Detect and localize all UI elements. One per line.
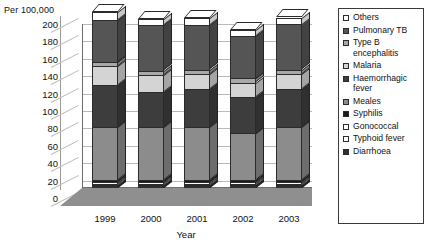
bar-segment-malaria[interactable] [92, 66, 118, 85]
bar-segment-diarrhoea[interactable] [92, 185, 118, 188]
bar-segment-typhoid-fever[interactable] [92, 184, 118, 186]
bar-segment-haemorrhagic-fever[interactable] [138, 92, 164, 127]
legend-label: Diarrhoea [353, 146, 391, 157]
bar-segment-pulmonary-tb[interactable] [92, 20, 118, 62]
bar-segment-gonococcal[interactable] [184, 182, 210, 184]
bar-segment-diarrhoea[interactable] [184, 185, 210, 188]
y-axis-tick-label: 200 [22, 19, 58, 30]
bar-segment-meales[interactable] [138, 127, 164, 180]
legend-swatch [343, 149, 349, 155]
bar-segment-meales[interactable] [230, 133, 256, 180]
legend-swatch [343, 136, 349, 142]
y-axis-tick-label: 180 [22, 36, 58, 47]
bar-segment-meales[interactable] [184, 127, 210, 180]
x-axis-tick-label: 1999 [82, 213, 128, 224]
bar-segment-side [302, 83, 310, 128]
legend-item-haemorrhagic-fever[interactable]: Haemorrhagic fever [343, 73, 421, 94]
bar-segment-typhoid-fever[interactable] [276, 184, 302, 186]
bar-segment-type-b-encephalitis[interactable] [276, 70, 302, 74]
bar-segment-syphilis[interactable] [138, 180, 164, 182]
legend-item-diarrhoea[interactable]: Diarrhoea [343, 146, 421, 157]
legend-swatch [343, 40, 349, 46]
bar-segment-malaria[interactable] [138, 75, 164, 92]
x-axis-tick-label: 2003 [266, 213, 312, 224]
legend-swatch [343, 15, 349, 21]
y-axis-tick-label: 160 [22, 53, 58, 64]
bar-segment-malaria[interactable] [184, 74, 210, 89]
bar-segment-malaria[interactable] [230, 83, 256, 97]
bar-segment-type-b-encephalitis[interactable] [184, 70, 210, 74]
y-axis-tick-label: 140 [22, 71, 58, 82]
y-axis-tick-label: 80 [22, 123, 58, 134]
bar-segment-pulmonary-tb[interactable] [184, 25, 210, 69]
x-axis-tick-label: 2001 [174, 213, 220, 224]
legend-item-malaria[interactable]: Malaria [343, 60, 421, 71]
bar-segment-gonococcal[interactable] [92, 182, 118, 184]
bar-segment-syphilis[interactable] [92, 180, 118, 182]
bar-segment-gonococcal[interactable] [138, 182, 164, 184]
legend-label: Pulmonary TB [353, 25, 407, 36]
legend-item-others[interactable]: Others [343, 12, 421, 23]
bar-segment-meales[interactable] [92, 127, 118, 180]
bar-segment-type-b-encephalitis[interactable] [138, 71, 164, 75]
chart-legend: OthersPulmonary TBType B encephalitisMal… [338, 8, 424, 224]
legend-swatch [343, 63, 349, 69]
legend-label: Haemorrhagic fever [353, 73, 421, 94]
bar-segment-pulmonary-tb[interactable] [230, 36, 256, 79]
legend-item-gonococcal[interactable]: Gonococcal [343, 121, 421, 132]
bar-segment-malaria[interactable] [276, 74, 302, 89]
bar-segment-meales[interactable] [276, 127, 302, 180]
bar-segment-gonococcal[interactable] [276, 182, 302, 184]
bar-segment-haemorrhagic-fever[interactable] [184, 89, 210, 127]
legend-item-syphilis[interactable]: Syphilis [343, 108, 421, 119]
bar-segment-side [256, 90, 264, 133]
bar-segment-typhoid-fever[interactable] [138, 184, 164, 186]
bar-segment-type-b-encephalitis[interactable] [92, 62, 118, 66]
bar-segment-others[interactable] [92, 12, 118, 20]
bar-segment-diarrhoea[interactable] [230, 185, 256, 188]
legend-label: Gonococcal [353, 121, 398, 132]
bar-segment-diarrhoea[interactable] [138, 185, 164, 188]
bar-segment-side [118, 14, 126, 62]
bar-segment-typhoid-fever[interactable] [184, 184, 210, 186]
legend-swatch [343, 124, 349, 130]
legend-item-meales[interactable]: Meales [343, 96, 421, 107]
bar-segment-pulmonary-tb[interactable] [138, 25, 164, 70]
legend-swatch [343, 99, 349, 105]
bar-segment-syphilis[interactable] [230, 180, 256, 182]
x-axis-tick-label: 2000 [128, 213, 174, 224]
bar-segment-haemorrhagic-fever[interactable] [276, 89, 302, 127]
bar-segment-type-b-encephalitis[interactable] [230, 78, 256, 82]
bar-segment-gonococcal[interactable] [230, 182, 256, 184]
y-axis-tick-label: 0 [22, 193, 58, 204]
bar-segment-diarrhoea[interactable] [276, 185, 302, 188]
bar-segment-side [164, 19, 172, 70]
y-axis-tick-label: 100 [22, 106, 58, 117]
chart-floor [60, 188, 312, 206]
bar-segment-others[interactable] [276, 18, 302, 25]
legend-swatch [343, 111, 349, 117]
bar-segment-side [118, 121, 126, 180]
bar-segment-side [302, 121, 310, 180]
legend-item-type-b-encephalitis[interactable]: Type B encephalitis [343, 37, 421, 58]
legend-swatch [343, 76, 349, 82]
bar-segment-syphilis[interactable] [276, 180, 302, 182]
legend-item-typhoid-fever[interactable]: Typhoid fever [343, 133, 421, 144]
bar-segment-others[interactable] [184, 18, 210, 25]
bar-segment-haemorrhagic-fever[interactable] [230, 97, 256, 134]
bar-segment-side [256, 30, 264, 79]
legend-label: Malaria [353, 60, 381, 71]
legend-item-pulmonary-tb[interactable]: Pulmonary TB [343, 25, 421, 36]
stacked-bar-chart: Per 100,000 200180160140120100806040200 … [0, 0, 428, 243]
bar-segment-others[interactable] [138, 19, 164, 25]
y-axis-ticks: 200180160140120100806040200 [20, 0, 58, 243]
legend-label: Type B encephalitis [353, 37, 421, 58]
bar-segment-pulmonary-tb[interactable] [276, 24, 302, 69]
legend-label: Others [353, 12, 379, 23]
bar-segment-haemorrhagic-fever[interactable] [92, 85, 118, 127]
bar-segment-typhoid-fever[interactable] [230, 184, 256, 186]
bar-segment-side [210, 121, 218, 180]
bar-segment-others[interactable] [230, 30, 256, 36]
bar-segment-syphilis[interactable] [184, 180, 210, 182]
legend-swatch [343, 28, 349, 34]
